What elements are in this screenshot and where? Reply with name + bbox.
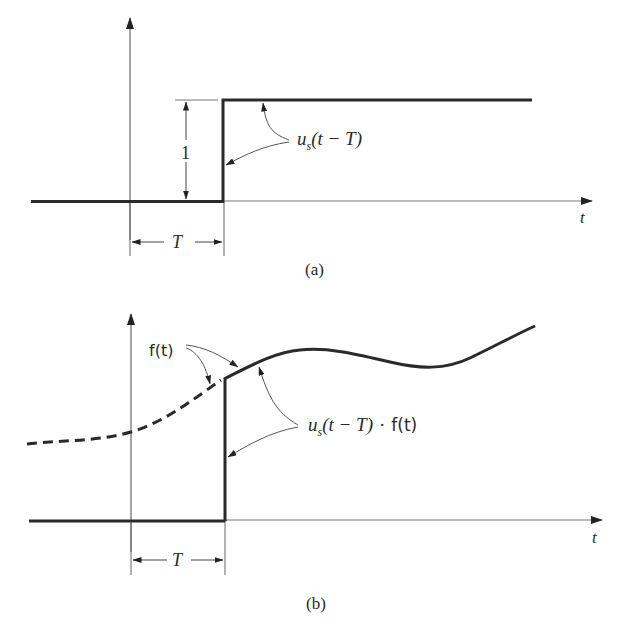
amplitude-label: 1 bbox=[181, 143, 190, 163]
product-leader-to-edge bbox=[228, 427, 298, 457]
step-function-a bbox=[31, 100, 532, 202]
product-leader-to-curve bbox=[259, 367, 298, 425]
delay-label-b: T bbox=[172, 550, 184, 570]
delay-label-a: T bbox=[172, 232, 184, 252]
signal-leader-to-dashed bbox=[186, 348, 210, 384]
product-curve bbox=[224, 326, 535, 379]
caption-a: (a) bbox=[305, 260, 324, 279]
t-axis-label-b: t bbox=[592, 528, 598, 547]
signal-leader-to-solid bbox=[186, 345, 238, 367]
leader-arrow-edge-a bbox=[226, 142, 289, 165]
signal-dashed-segment bbox=[27, 380, 221, 444]
panel-b: t f(t) us(t − T)·f(t) T (b) bbox=[27, 314, 602, 613]
panel-a: t 1 us(t − T) T (a) bbox=[31, 18, 592, 279]
product-label: us(t − T)·f(t) bbox=[308, 414, 417, 439]
caption-b: (b) bbox=[306, 594, 326, 613]
figure-canvas: t 1 us(t − T) T (a) t bbox=[0, 0, 620, 640]
signal-label: f(t) bbox=[149, 341, 173, 360]
step-function-label-a: us(t − T) bbox=[297, 128, 362, 153]
leader-arrow-top-a bbox=[263, 103, 289, 140]
t-axis-label-a: t bbox=[580, 208, 586, 227]
